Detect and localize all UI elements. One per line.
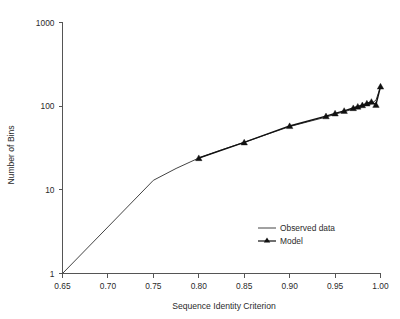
- y-tick-label: 1: [50, 269, 55, 279]
- x-tick-label: 0.95: [327, 281, 344, 291]
- x-tick-label: 0.85: [236, 281, 253, 291]
- x-axis-title: Sequence Identity Criterion: [172, 301, 276, 311]
- legend-label-observed-data: Observed data: [280, 223, 335, 233]
- y-tick-label: 1000: [36, 18, 55, 28]
- x-tick-label: 0.80: [191, 281, 208, 291]
- chart-figure: 1101001000 0.650.700.750.800.850.900.951…: [0, 0, 400, 319]
- chart-canvas: 1101001000 0.650.700.750.800.850.900.951…: [0, 0, 400, 319]
- x-tick-label: 0.65: [54, 281, 71, 291]
- x-tick-label: 1.00: [372, 281, 389, 291]
- y-tick-label: 10: [45, 185, 55, 195]
- y-tick-label: 100: [41, 101, 55, 111]
- legend-label-model: Model: [280, 236, 303, 246]
- x-tick-label: 0.70: [100, 281, 117, 291]
- x-tick-label: 0.90: [281, 281, 298, 291]
- y-axis-title: Number of Bins: [6, 125, 16, 184]
- x-tick-label: 0.75: [145, 281, 162, 291]
